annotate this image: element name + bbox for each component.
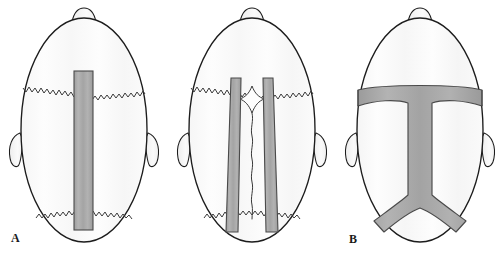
panel-label-a: A	[11, 232, 20, 244]
panel-a: A	[0, 0, 168, 261]
panel-c: C	[336, 0, 504, 261]
panel-b-diagram	[168, 0, 336, 261]
panel-b: B	[168, 0, 336, 261]
sagittal-strip	[74, 71, 93, 230]
panel-a-diagram	[0, 0, 168, 261]
figure-container: A	[0, 0, 504, 261]
panel-c-diagram	[336, 0, 504, 261]
